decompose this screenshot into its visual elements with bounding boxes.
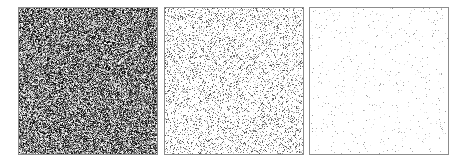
panel-very-sparse-noise bbox=[309, 7, 449, 155]
dense-noise-image bbox=[19, 8, 157, 154]
very-sparse-noise-image bbox=[310, 8, 448, 154]
sparse-noise-image bbox=[165, 8, 303, 154]
panel-sparse-noise bbox=[164, 7, 304, 155]
figure-stage bbox=[0, 0, 467, 164]
panel-dense-noise bbox=[18, 7, 158, 155]
